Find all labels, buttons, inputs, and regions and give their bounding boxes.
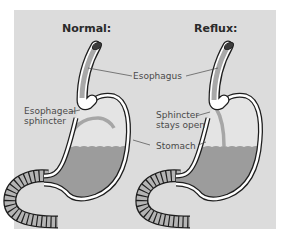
esophageal-sphincter-line1: Esophageal	[24, 106, 76, 116]
normal-stomach-diagram	[10, 41, 140, 222]
stomach-label: Stomach	[156, 141, 196, 151]
esophagus-label: Esophagus	[133, 71, 182, 81]
sphincter-stays-open-label: Sphincter stays open	[156, 110, 205, 130]
esophageal-sphincter-label: Esophageal sphincter	[24, 106, 76, 126]
reflux-stomach-diagram	[133, 41, 272, 222]
esophageal-sphincter-line2: sphincter	[24, 116, 76, 126]
sphincter-open-line2: stays open	[156, 120, 205, 130]
sphincter-open-line1: Sphincter	[156, 110, 205, 120]
reflux-title: Reflux:	[194, 22, 237, 35]
normal-title: Normal:	[62, 22, 111, 35]
